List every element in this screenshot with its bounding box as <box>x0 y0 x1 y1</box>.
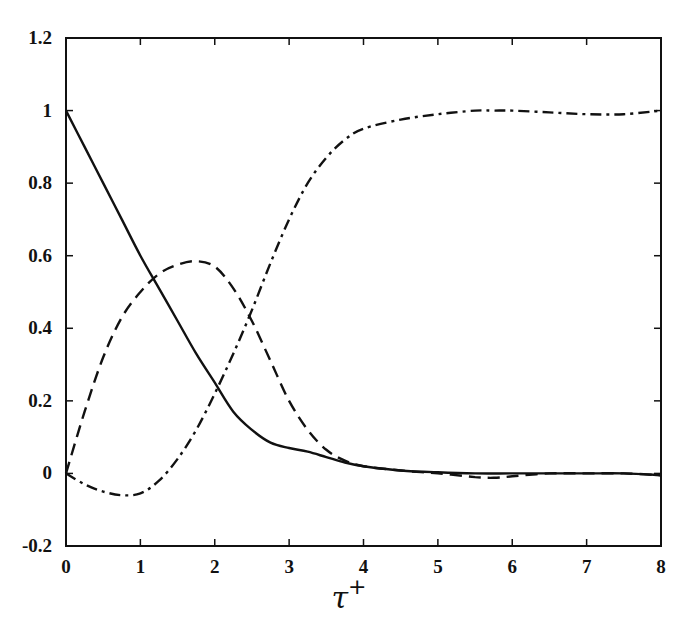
y-tick-label: 1 <box>43 100 53 121</box>
x-tick-label: 7 <box>582 556 592 577</box>
x-axis-title-symbol: τ <box>331 580 348 615</box>
series-layer <box>66 110 661 495</box>
y-tick-label: 0.2 <box>28 390 52 411</box>
x-axis-title: τ+ <box>331 574 366 615</box>
x-axis-title-superscript: + <box>348 574 366 599</box>
y-tick-label: 0.6 <box>28 245 52 266</box>
x-tick-label: 6 <box>508 556 518 577</box>
y-tick-label: 1.2 <box>28 27 52 48</box>
x-tick-label: 2 <box>210 556 220 577</box>
x-tick-label: 0 <box>61 556 71 577</box>
line-chart: -0.200.20.40.60.811.2 012345678 τ+ <box>0 0 686 632</box>
series-dashed-line <box>66 261 661 478</box>
y-axis-tick-labels: -0.200.20.40.60.811.2 <box>22 27 53 556</box>
x-tick-label: 1 <box>136 556 146 577</box>
y-tick-label: 0 <box>43 462 53 483</box>
y-tick-label: -0.2 <box>22 535 52 556</box>
series-dash-dot-line <box>66 110 661 495</box>
x-tick-label: 3 <box>284 556 294 577</box>
series-solid-line <box>66 111 661 476</box>
y-tick-label: 0.8 <box>28 172 52 193</box>
y-tick-label: 0.4 <box>28 317 52 338</box>
x-tick-label: 5 <box>433 556 443 577</box>
x-tick-label: 8 <box>656 556 666 577</box>
